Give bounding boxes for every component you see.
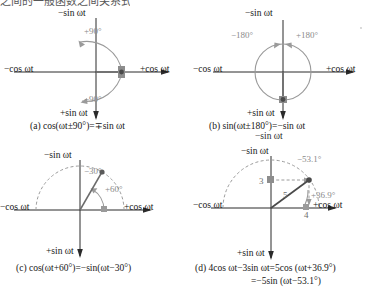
angle-label-d-2: +36.9° bbox=[311, 190, 335, 200]
angle-label-c-2: +60° bbox=[105, 184, 123, 194]
axis-label-pos-cos-d: +cos ωt bbox=[313, 200, 342, 210]
angle-label-c-1: −30° bbox=[84, 166, 102, 176]
panel-b-caption-overflow: −sin ωt bbox=[255, 131, 283, 142]
angle-label-a-2: −90° bbox=[84, 94, 102, 104]
panel-d-caption-line2: =−5sin (ωt−53.1°) bbox=[251, 275, 321, 287]
sin-axis-arrow-c bbox=[77, 249, 83, 258]
angle-label-b-2: +180° bbox=[296, 30, 318, 40]
axis-label-pos-sin-d: +sin ωt bbox=[237, 248, 265, 258]
axis-label-pos-sin-c: +sin ωt bbox=[46, 246, 74, 256]
value-label-d-magnitude: 5 bbox=[283, 190, 288, 200]
panel-a: −sin ωt +sin ωt −cos ωt +cos ωt +90° −90… bbox=[0, 0, 193, 146]
axis-label-neg-sin-d: −sin ωt bbox=[241, 146, 269, 156]
panel-b: −sin ωt +sin ωt −cos ωt +cos ωt −180° +1… bbox=[193, 0, 386, 146]
arc-plus-90-a bbox=[80, 41, 122, 72]
axis-label-pos-sin-a: +sin ωt bbox=[60, 108, 88, 118]
phasor-tip-d bbox=[306, 177, 312, 183]
phasor-c bbox=[80, 172, 102, 210]
axis-label-neg-sin-c: −sin ωt bbox=[44, 150, 72, 160]
value-label-d-imag: 3 bbox=[259, 176, 264, 186]
arc-arrow-plus-180-b bbox=[285, 43, 292, 49]
axis-label-pos-sin-b: +sin ωt bbox=[247, 108, 275, 118]
angle-label-b-1: −180° bbox=[231, 30, 253, 40]
sin-axis-arrow-d bbox=[268, 251, 274, 260]
axis-label-neg-sin-b: −sin ωt bbox=[245, 8, 273, 18]
axis-label-neg-cos-c: −cos ωt bbox=[0, 202, 29, 212]
arc-arrow-minus-180-b bbox=[274, 43, 281, 49]
axis-label-neg-cos-b: −cos ωt bbox=[193, 64, 222, 74]
sin-axis-arrow-a bbox=[93, 111, 99, 120]
ref-marker-c bbox=[101, 206, 107, 212]
axis-label-neg-cos-d: −cos ωt bbox=[193, 200, 222, 210]
phasor-tip-b bbox=[281, 97, 286, 102]
phasor-tip-a bbox=[119, 70, 124, 75]
panel-d: −sin ωt +sin ωt −cos ωt +cos ωt −53.1° +… bbox=[193, 146, 386, 292]
panel-c: −sin ωt +sin ωt −cos ωt +cos ωt −30° +60… bbox=[0, 146, 193, 292]
axis-label-neg-cos-a: −cos ωt bbox=[4, 64, 33, 74]
sin-axis-arrow-b bbox=[280, 111, 286, 120]
value-label-d-real: 4 bbox=[304, 210, 309, 220]
resultant-phasor-d bbox=[271, 180, 309, 208]
figure-page: 之间的一般函数之间关系式 −sin ωt +sin ωt −cos ωt +co… bbox=[0, 0, 386, 292]
panel-d-caption: (d) 4cos ωt−3sin ωt=5cos (ωt+36.9°) bbox=[195, 262, 336, 274]
axis-label-neg-sin-a: −sin ωt bbox=[58, 8, 86, 18]
panel-c-caption: (c) cos(ωt+60°)=−sin(ωt−30°) bbox=[16, 262, 131, 274]
axis-label-pos-cos-b: +cos ωt bbox=[326, 64, 355, 74]
axis-label-pos-cos-a: +cos ωt bbox=[140, 64, 169, 74]
ref-marker-imag-d bbox=[267, 176, 274, 183]
angle-label-a-1: +90° bbox=[84, 26, 102, 36]
angle-label-d-1: −53.1° bbox=[297, 154, 321, 164]
panel-a-caption: (a) cos(ωt±90°)=∓sin ωt bbox=[30, 120, 125, 132]
axis-label-pos-cos-c: +cos ωt bbox=[124, 202, 153, 212]
speck-b bbox=[360, 27, 362, 29]
